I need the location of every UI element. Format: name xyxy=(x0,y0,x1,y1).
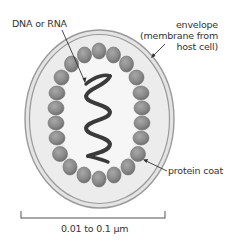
virus-diagram: DNA or RNA envelope (membrane from host … xyxy=(0,0,235,242)
protein-coat-label: protein coat xyxy=(168,165,223,176)
envelope-label-line1: envelope xyxy=(176,19,218,30)
envelope-label-line3: host cell) xyxy=(176,41,218,52)
nucleic-acid-label: DNA or RNA xyxy=(12,18,67,29)
scale-label: 0.01 to 0.1 µm xyxy=(61,223,128,234)
scale-bar xyxy=(21,211,165,219)
envelope-label-line2: (membrane from xyxy=(140,30,218,41)
